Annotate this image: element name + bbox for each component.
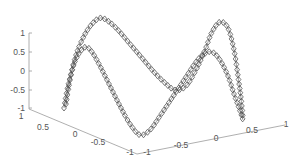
3d-line-plot: 1 0.5 0 -0.5 -1 1 0.5 0 -0.5 -1 -1 -0.5 …: [0, 0, 298, 166]
z-axis-ticks: [29, 33, 32, 108]
right-floor-tick-labels: -1 -0.5 0 0.5 1: [143, 119, 288, 157]
z-tick-label: 0: [20, 66, 25, 76]
z-tick-label: 1: [20, 28, 25, 38]
left-floor-tick-label: 1: [19, 111, 24, 121]
right-floor-tick-label: 0: [214, 133, 219, 143]
series-line: [64, 47, 243, 135]
z-tick-label: 0.5: [13, 47, 25, 57]
z-tick-label: -0.5: [10, 85, 25, 95]
series-curve-back: [64, 15, 246, 118]
left-floor-tick-labels: 1 0.5 0 -0.5 -1: [19, 111, 134, 157]
series-line: [66, 18, 243, 118]
series-curve-front: [62, 44, 245, 138]
series-layer: [62, 15, 246, 138]
right-floor-tick-label: 0.5: [246, 125, 258, 135]
right-floor-tick-label: 1: [284, 119, 289, 129]
left-floor-tick-label: 0.5: [37, 122, 49, 132]
z-axis-tick-labels: 1 0.5 0 -0.5 -1: [10, 28, 25, 113]
left-floor-tick-label: -0.5: [91, 137, 106, 147]
left-floor-tick-label: 0: [73, 129, 78, 139]
right-floor-tick-label: -1: [143, 147, 151, 157]
right-floor-axis-line: [137, 125, 285, 154]
right-floor-tick-label: -0.5: [174, 140, 189, 150]
left-floor-tick-label: -1: [126, 147, 134, 157]
